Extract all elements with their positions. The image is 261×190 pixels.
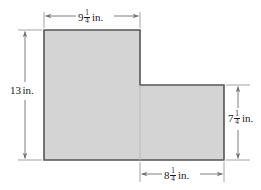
dimension-bottom-denominator: 4 (170, 175, 176, 183)
dimension-bottom-unit: in. (178, 169, 189, 181)
dimension-bottom-fraction: 14 (170, 168, 176, 184)
dimension-right-numerator: 1 (234, 111, 240, 118)
dimension-top-numerator: 1 (84, 10, 90, 17)
dimension-top-unit: in. (92, 11, 103, 23)
l-shape-polygon (44, 30, 224, 160)
dimension-right-denominator: 4 (234, 118, 240, 126)
dimension-label-left: 13in. (10, 85, 34, 96)
geometry-figure: 914in. 13in. 714in. 814in. (0, 0, 261, 190)
dimension-top-whole: 9 (78, 11, 84, 23)
dimension-top-denominator: 4 (84, 17, 90, 25)
dimension-left-unit: in. (23, 84, 34, 96)
dimension-top-fraction: 14 (84, 10, 90, 26)
dimension-label-top: 914in. (78, 10, 103, 26)
dimension-right-whole: 7 (228, 112, 234, 124)
dimension-label-bottom: 814in. (164, 168, 189, 184)
dimension-bottom-whole: 8 (164, 169, 170, 181)
dimension-right-unit: in. (242, 112, 253, 124)
dimension-left-whole: 13 (10, 84, 21, 96)
dimension-label-right: 714in. (228, 111, 253, 127)
figure-canvas (0, 0, 261, 190)
dimension-bottom-numerator: 1 (170, 168, 176, 175)
dimension-right-fraction: 14 (234, 111, 240, 127)
